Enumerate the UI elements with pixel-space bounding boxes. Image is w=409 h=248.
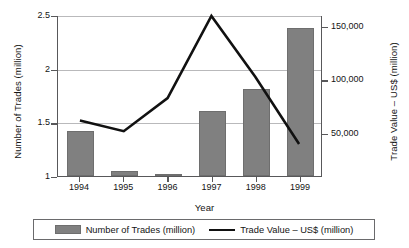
legend-item-label: Number of Trades (million) (86, 225, 196, 235)
legend-bar-swatch-icon (55, 225, 81, 234)
legend-item: Trade Value – US$ (million) (209, 225, 353, 235)
trade-value-line (80, 16, 299, 144)
x-axis-tick-label: 1995 (98, 182, 148, 192)
x-axis-title: Year (0, 202, 409, 213)
x-axis-tick-mark (300, 177, 301, 182)
legend-line-swatch-icon (209, 229, 235, 231)
x-axis-tick-label: 1996 (142, 182, 192, 192)
legend-item-label: Trade Value – US$ (million) (240, 225, 353, 235)
x-axis-tick-mark (167, 177, 168, 182)
y-axis-left-tick-label: 2 (10, 64, 50, 74)
y-axis-right-tick-mark (322, 27, 328, 28)
legend-item: Number of Trades (million) (55, 225, 196, 235)
y-axis-left-tick-mark (51, 177, 57, 178)
x-axis-tick-label: 1998 (231, 182, 281, 192)
y-axis-left-tick-label: 1 (10, 171, 50, 181)
y-axis-right-tick-mark (322, 134, 328, 135)
combo-chart: Number of Trades (million) Trade Value –… (0, 0, 409, 248)
y-axis-left-tick-label: 1.5 (10, 117, 50, 127)
x-axis-tick-label: 1994 (54, 182, 104, 192)
y-axis-right-tick-mark (322, 80, 328, 81)
y-axis-right-tick-label: 50,000 (331, 128, 383, 138)
x-axis-tick-label: 1997 (187, 182, 237, 192)
line-series (58, 16, 321, 176)
y-axis-right-title: Trade Value – US$ (million) (388, 27, 399, 177)
x-axis-tick-label: 1999 (275, 182, 325, 192)
x-axis-tick-mark (256, 177, 257, 182)
x-axis-tick-mark (212, 177, 213, 182)
chart-legend: Number of Trades (million)Trade Value – … (33, 219, 375, 240)
x-axis-tick-mark (79, 177, 80, 182)
y-axis-right-tick-label: 150,000 (331, 21, 383, 31)
plot-area (57, 16, 322, 177)
y-axis-left-title: Number of Trades (million) (12, 27, 23, 177)
y-axis-left-tick-label: 2.5 (10, 10, 50, 20)
y-axis-right-tick-label: 100,000 (331, 74, 383, 84)
x-axis-tick-mark (123, 177, 124, 182)
